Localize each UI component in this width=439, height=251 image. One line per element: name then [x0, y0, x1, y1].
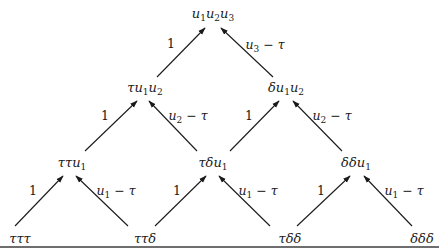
edge-label-l3left-l2left: 1 [101, 110, 109, 123]
node-l3-left: ττu1 [58, 156, 87, 172]
edge-label-b4-l3right: u1 − τ [384, 185, 423, 200]
edge-label-l2left-top: 1 [167, 38, 175, 51]
node-l2-right: δu1u2 [268, 81, 304, 97]
edge-b1-l3left [15, 176, 63, 226]
node-top: u1u2u3 [192, 7, 234, 23]
edge-label-b3-l3right: 1 [317, 185, 325, 198]
edge-label-b1-l3left: 1 [29, 185, 37, 198]
edge-label-l3right-l2right: u2 − τ [312, 110, 351, 125]
edge-label-l2right-top: u3 − τ [245, 39, 284, 54]
node-l3-mid: τδu1 [198, 156, 227, 172]
edge-l2left-top [157, 28, 205, 77]
node-bottom-3: τδδ [279, 232, 302, 245]
edge-label-l3mid-l2right: 1 [245, 110, 253, 123]
node-l2-left: τu1u2 [127, 81, 162, 97]
edge-l3mid-l2right [230, 101, 279, 151]
node-bottom-1: τττ [9, 232, 31, 245]
lattice-diagram: u1u2u3 τu1u2 δu1u2 ττu1 τδu1 δδu1 τττ ττ… [0, 0, 439, 251]
node-l3-right: δδu1 [341, 156, 371, 172]
edge-label-b3-l3mid: u1 − τ [238, 185, 277, 200]
edge-l3left-l2left [85, 101, 137, 151]
bottom-rule [0, 246, 439, 248]
edges-layer [0, 0, 439, 251]
edge-label-l3mid-l2left: u2 − τ [168, 110, 207, 125]
node-bottom-2: ττδ [134, 232, 156, 245]
edge-label-b2-l3left: u1 − τ [96, 185, 135, 200]
node-bottom-4: δδδ [410, 232, 433, 245]
edge-label-b2-l3mid: 1 [173, 185, 181, 198]
